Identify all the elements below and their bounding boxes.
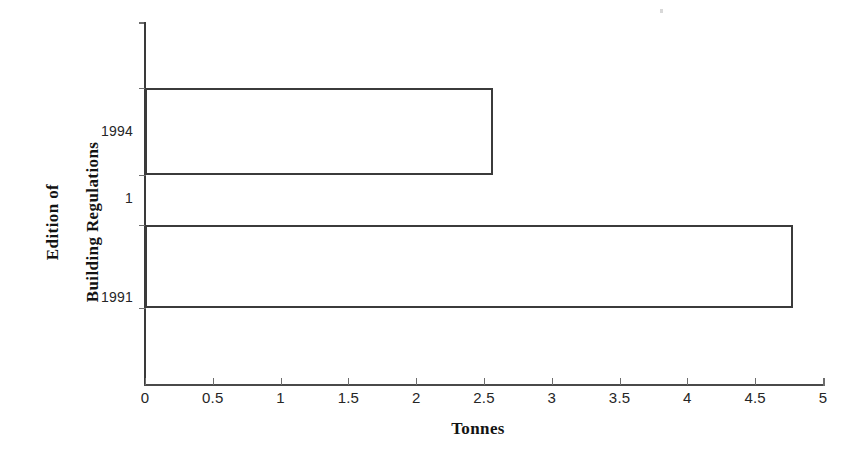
x-axis-tick-label: 4	[657, 389, 717, 406]
x-axis-tick	[755, 378, 756, 385]
x-axis-tick	[213, 378, 214, 385]
x-axis-tick	[348, 378, 349, 385]
y-axis-line	[144, 22, 146, 386]
x-axis-tick-label: 2.5	[454, 389, 514, 406]
x-axis-tick-label: 0	[115, 389, 175, 406]
x-axis-tick-label: 3	[522, 389, 582, 406]
x-axis-tick	[552, 378, 553, 385]
x-axis-tick-label: 2	[386, 389, 446, 406]
x-axis-title: Tonnes	[378, 419, 578, 439]
bar-1991	[145, 225, 793, 308]
x-axis-tick	[484, 378, 485, 385]
x-axis-tick-label: 0.5	[183, 389, 243, 406]
y-axis-tick	[139, 308, 146, 309]
x-axis-tick-label: 1.5	[318, 389, 378, 406]
y-axis-tick-label-wrap: 1994	[0, 123, 133, 141]
scan-artifact-speck	[660, 9, 663, 13]
y-axis-tick-label-wrap: 1991	[0, 289, 133, 307]
y-axis-tick-label-wrap: 1	[0, 190, 133, 208]
y-axis-tick-label: 1991	[13, 289, 133, 305]
x-axis-tick-label: 4.5	[725, 389, 785, 406]
bar-1994	[145, 88, 493, 175]
x-axis-tick-label: 1	[251, 389, 311, 406]
x-axis-tick	[823, 378, 824, 385]
x-axis-tick	[620, 378, 621, 385]
chart-figure: Edition of Building Regulations 00.511.5…	[0, 0, 867, 460]
y-axis-tick-label: 1994	[13, 123, 133, 139]
y-axis-tick	[139, 175, 146, 176]
x-axis-tick	[416, 378, 417, 385]
y-axis-tick-label: 1	[13, 190, 133, 206]
x-axis-tick	[145, 378, 146, 385]
x-axis-tick-label: 5	[793, 389, 853, 406]
x-axis-tick	[687, 378, 688, 385]
x-axis-tick-label: 3.5	[590, 389, 650, 406]
x-axis-tick	[281, 378, 282, 385]
y-axis-title: Edition of Building Regulations	[0, 0, 100, 460]
